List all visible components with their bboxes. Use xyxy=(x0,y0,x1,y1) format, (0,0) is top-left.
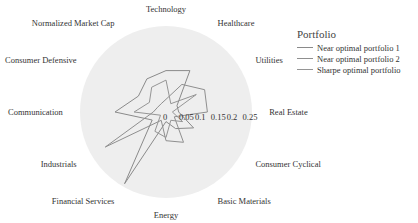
radial-tick-label: 0.15 xyxy=(211,112,226,122)
axis-label: Financial Services xyxy=(52,196,115,206)
axis-label: Utilities xyxy=(255,55,282,65)
legend-item-near-optimal-1[interactable]: Near optimal portfolio 1 xyxy=(297,42,401,53)
axis-label: Normalized Market Cap xyxy=(32,18,115,28)
axis-label: Communication xyxy=(8,107,64,117)
legend-line-icon xyxy=(297,58,313,59)
axis-label: Basic Materials xyxy=(218,196,271,206)
axis-label: Consumer Cyclical xyxy=(255,159,321,169)
radial-tick-label: 0.05 xyxy=(179,112,194,122)
legend-label: Near optimal portfolio 1 xyxy=(317,43,400,53)
radial-tick-label: 0.25 xyxy=(243,112,258,122)
axis-label: Technology xyxy=(146,4,187,14)
radial-tick-label: 0.1 xyxy=(195,112,206,122)
legend-title: Portfolio xyxy=(297,28,401,40)
axis-label: Energy xyxy=(154,210,179,220)
axis-label: Consumer Defensive xyxy=(5,55,77,65)
legend-line-icon xyxy=(297,47,313,48)
legend-line-icon xyxy=(297,69,313,70)
legend-item-sharpe-optimal[interactable]: Sharpe optimal portfolio xyxy=(297,64,401,75)
axis-label: Industrials xyxy=(41,159,77,169)
radial-tick-label: 0.2 xyxy=(227,112,238,122)
legend-label: Sharpe optimal portfolio xyxy=(317,65,401,75)
legend: Portfolio Near optimal portfolio 1 Near … xyxy=(297,28,401,75)
axis-label: Healthcare xyxy=(218,18,255,28)
legend-label: Near optimal portfolio 2 xyxy=(317,54,400,64)
radial-tick-label: 0 xyxy=(163,112,167,122)
axis-label: Real Estate xyxy=(269,107,308,117)
legend-item-near-optimal-2[interactable]: Near optimal portfolio 2 xyxy=(297,53,401,64)
